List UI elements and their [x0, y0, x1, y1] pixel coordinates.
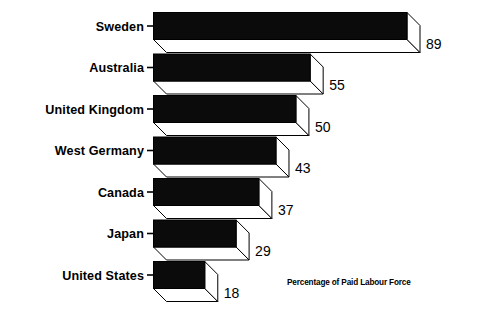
bar-front-face[interactable] — [154, 54, 311, 81]
bar-group[interactable] — [154, 220, 250, 260]
bars-layer — [154, 13, 421, 302]
value-label: 50 — [315, 119, 331, 135]
axis-note-label: Percentage of Paid Labour Force — [287, 278, 411, 287]
category-label: West Germany — [55, 144, 144, 158]
bar-group[interactable] — [154, 96, 309, 136]
bar-group[interactable] — [154, 262, 218, 302]
bar-front-face[interactable] — [154, 220, 237, 247]
bar-bottom-face — [154, 40, 421, 53]
category-labels-layer: SwedenAustraliaUnited KingdomWest German… — [45, 20, 153, 283]
bar-front-face[interactable] — [154, 96, 296, 123]
category-label: United States — [62, 269, 144, 283]
value-label: 18 — [224, 285, 240, 301]
value-label: 89 — [426, 36, 442, 52]
bar-bottom-face — [154, 206, 272, 219]
bar-bottom-face — [154, 164, 289, 177]
value-label: 55 — [329, 77, 345, 93]
category-label: United Kingdom — [45, 103, 144, 117]
bar-front-face[interactable] — [154, 262, 205, 289]
bar-front-face[interactable] — [154, 137, 276, 164]
bar-bottom-face — [154, 123, 309, 136]
category-label: Australia — [89, 61, 145, 75]
value-label: 29 — [255, 243, 271, 259]
bar-group[interactable] — [154, 54, 324, 94]
bar-group[interactable] — [154, 13, 421, 53]
bar-front-face[interactable] — [154, 179, 259, 206]
category-label: Canada — [98, 186, 145, 200]
value-label: 43 — [295, 160, 311, 176]
bar-group[interactable] — [154, 179, 272, 219]
bar-bottom-face — [154, 247, 250, 260]
bar-group[interactable] — [154, 137, 289, 177]
bar-bottom-face — [154, 81, 324, 94]
bar-front-face[interactable] — [154, 13, 408, 40]
category-label: Japan — [107, 227, 144, 241]
category-label: Sweden — [96, 20, 144, 34]
value-label: 37 — [278, 202, 294, 218]
bar-chart-figure: SwedenAustraliaUnited KingdomWest German… — [0, 0, 487, 312]
chart-canvas: SwedenAustraliaUnited KingdomWest German… — [0, 0, 487, 312]
